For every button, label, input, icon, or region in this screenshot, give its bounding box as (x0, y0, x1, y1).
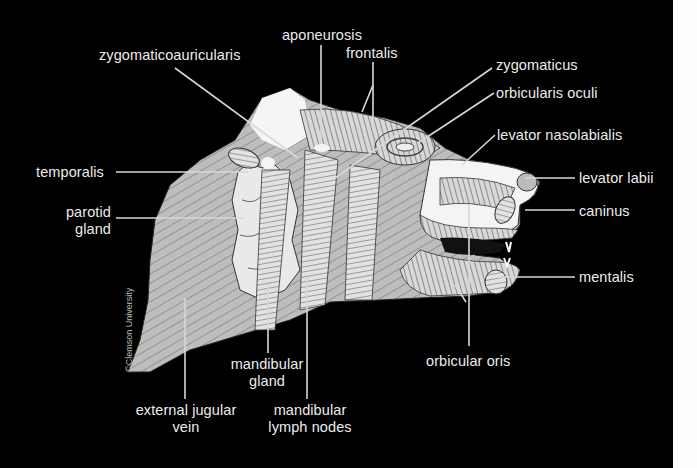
label-orbicularis-oculi: orbicularis oculi (496, 85, 598, 102)
label-aponeurosis: aponeurosis (279, 27, 365, 44)
label-mandibular-lymph-nodes: mandibular lymph nodes (262, 402, 358, 436)
label-external-jugular-vein-line2: vein (128, 419, 244, 436)
label-temporalis: temporalis (36, 164, 104, 181)
label-external-jugular-vein-line1: external jugular (128, 402, 244, 419)
label-mandibular-lymph-nodes-line1: mandibular (262, 402, 358, 419)
label-mandibular-gland-line1: mandibular (222, 356, 312, 373)
label-zygomaticoauricularis: zygomaticoauricularis (99, 47, 241, 64)
diagram-panel: aponeurosis zygomaticoauricularis fronta… (0, 0, 673, 468)
mentalis-muscle (485, 270, 507, 294)
label-frontalis: frontalis (346, 45, 398, 62)
label-levator-nasolabialis: levator nasolabialis (497, 127, 622, 144)
label-parotid-gland-line2: gland (40, 221, 111, 238)
label-orbicular-oris: orbicular oris (426, 353, 510, 370)
teeth (504, 242, 511, 266)
label-parotid-gland: parotid gland (40, 204, 111, 238)
label-mandibular-gland-line2: gland (222, 373, 312, 390)
label-levator-labii: levator labii (579, 170, 654, 187)
right-margin (673, 0, 697, 468)
label-zygomaticus: zygomaticus (496, 57, 578, 74)
nose (517, 173, 537, 191)
label-caninus: caninus (579, 203, 630, 220)
label-external-jugular-vein: external jugular vein (128, 402, 244, 436)
label-mandibular-lymph-nodes-line2: lymph nodes (262, 419, 358, 436)
label-parotid-gland-line1: parotid (40, 204, 111, 221)
copyright-notice: ©Clemson University (124, 288, 134, 372)
label-mentalis: mentalis (579, 269, 634, 286)
mouth-opening (440, 238, 505, 255)
label-mandibular-gland: mandibular gland (222, 356, 312, 390)
